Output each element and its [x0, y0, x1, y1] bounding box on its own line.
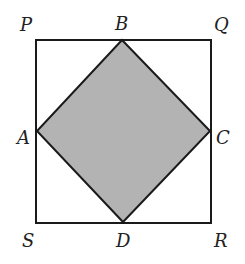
label-q: Q	[214, 14, 229, 35]
label-b: B	[114, 13, 128, 34]
label-d: D	[115, 230, 131, 251]
label-c: C	[216, 127, 230, 148]
label-s: S	[22, 230, 34, 251]
label-a: A	[15, 127, 30, 148]
label-r: R	[213, 230, 228, 251]
geometry-diagram: P B Q A C S D R	[0, 0, 245, 264]
label-p: P	[19, 14, 33, 35]
inner-square-abcd	[37, 40, 210, 222]
